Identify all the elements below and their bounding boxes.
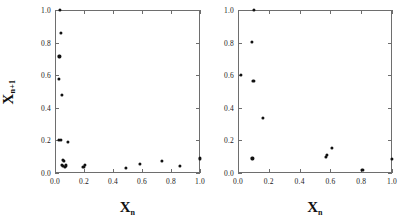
x-tick-top xyxy=(392,10,393,14)
y-tick-left xyxy=(238,10,242,11)
x-axis-title-base: X xyxy=(307,199,318,215)
y-tick-right xyxy=(388,75,392,76)
plot-frame-right xyxy=(238,10,392,173)
x-axis-title-subscript: n xyxy=(318,208,323,217)
x-tick-bottom xyxy=(392,169,393,173)
x-tick-bottom xyxy=(269,169,270,173)
y-tick-right xyxy=(388,173,392,174)
x-tick-top xyxy=(269,10,270,14)
y-tick-label: 0.8 xyxy=(212,38,234,47)
x-tick-bottom xyxy=(200,169,201,173)
y-tick-label: 0.6 xyxy=(212,71,234,80)
x-tick-label: 0.4 xyxy=(295,177,305,186)
y-tick-left xyxy=(238,140,242,141)
x-axis-title-right: Xn xyxy=(307,198,323,217)
x-axis-title-left: Xn xyxy=(120,198,136,217)
y-tick-left xyxy=(238,43,242,44)
x-tick-top xyxy=(330,10,331,14)
y-tick-label: 0.2 xyxy=(212,136,234,145)
y-tick-label: 0.0 xyxy=(29,169,51,178)
y-tick-label: 0.2 xyxy=(29,136,51,145)
x-tick-label: 0.4 xyxy=(108,177,118,186)
data-point xyxy=(198,157,201,160)
data-point xyxy=(390,158,393,161)
y-axis-title-left: Xn+1 xyxy=(0,79,17,104)
x-tick-top xyxy=(113,10,114,14)
x-tick-top xyxy=(171,10,172,14)
x-tick-label: 0.8 xyxy=(166,177,176,186)
x-tick-top xyxy=(142,10,143,14)
x-tick-bottom xyxy=(84,169,85,173)
x-tick-label: 1.0 xyxy=(195,177,205,186)
y-tick-left xyxy=(55,108,59,109)
x-tick-label: 1.0 xyxy=(387,177,397,186)
x-tick-bottom xyxy=(300,169,301,173)
y-tick-right xyxy=(388,43,392,44)
y-axis-title-subscript: n+1 xyxy=(8,79,17,93)
y-tick-label: 0.8 xyxy=(29,38,51,47)
x-tick-top xyxy=(361,10,362,14)
x-tick-bottom xyxy=(330,169,331,173)
y-tick-left xyxy=(238,173,242,174)
x-tick-label: 0.8 xyxy=(356,177,366,186)
y-tick-right xyxy=(388,140,392,141)
y-tick-label: 0.6 xyxy=(29,71,51,80)
y-tick-right xyxy=(196,173,200,174)
y-tick-right xyxy=(196,75,200,76)
x-tick-bottom xyxy=(142,169,143,173)
y-tick-right xyxy=(388,108,392,109)
x-tick-top xyxy=(84,10,85,14)
y-tick-left xyxy=(238,108,242,109)
y-tick-label: 0.4 xyxy=(29,103,51,112)
y-tick-right xyxy=(388,10,392,11)
y-tick-right xyxy=(196,10,200,11)
x-tick-label: 0.2 xyxy=(264,177,274,186)
x-tick-top xyxy=(300,10,301,14)
x-tick-label: 0.0 xyxy=(50,177,60,186)
x-tick-label: 0.6 xyxy=(325,177,335,186)
x-tick-label: 0.6 xyxy=(137,177,147,186)
plot-frame-left xyxy=(55,10,200,173)
y-tick-left xyxy=(55,75,59,76)
y-tick-right xyxy=(196,140,200,141)
x-tick-bottom xyxy=(171,169,172,173)
figure-scatter-pair: 0.00.20.40.60.81.00.00.20.40.60.81.0 Xn+… xyxy=(0,0,403,222)
y-tick-left xyxy=(55,43,59,44)
y-tick-label: 0.4 xyxy=(212,103,234,112)
x-tick-bottom xyxy=(113,169,114,173)
y-tick-label: 0.0 xyxy=(212,169,234,178)
y-tick-left xyxy=(55,173,59,174)
x-axis-title-base: X xyxy=(120,199,131,215)
x-tick-label: 0.2 xyxy=(79,177,89,186)
x-tick-top xyxy=(200,10,201,14)
y-tick-label: 1.0 xyxy=(29,6,51,15)
y-tick-label: 1.0 xyxy=(212,6,234,15)
y-tick-right xyxy=(196,108,200,109)
x-axis-title-subscript: n xyxy=(131,208,136,217)
x-tick-label: 0.0 xyxy=(233,177,243,186)
y-tick-right xyxy=(196,43,200,44)
y-axis-title-base: X xyxy=(0,93,16,104)
